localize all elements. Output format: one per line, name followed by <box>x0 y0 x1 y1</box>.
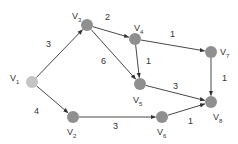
node-label-v5: V5 <box>133 96 142 107</box>
edge-weight-label: 1 <box>146 57 151 66</box>
node-label-subscript: 5 <box>139 101 142 107</box>
node-label-subscript: 6 <box>163 133 166 139</box>
edge-v4-v5 <box>136 45 140 78</box>
node-label-subscript: 1 <box>16 79 19 85</box>
node-label-v7: V7 <box>220 48 229 59</box>
edge-weight-label: 1 <box>222 74 227 83</box>
edge-v1-v3 <box>36 30 82 78</box>
graph-canvas <box>0 0 238 144</box>
node-label-v6: V6 <box>157 128 166 139</box>
edge-weight-label: 3 <box>113 122 118 131</box>
node-label-subscript: 3 <box>78 17 81 23</box>
node-label-subscript: 7 <box>226 53 229 59</box>
edge-v4-v7 <box>141 40 205 51</box>
node-label-subscript: 2 <box>73 133 76 139</box>
edge-weight-label: 6 <box>101 57 106 66</box>
node-v3 <box>81 19 93 31</box>
node-v2 <box>67 111 79 123</box>
edge-v3-v5 <box>91 29 136 79</box>
edge-v1-v2 <box>37 86 68 113</box>
node-label-v8: V8 <box>213 113 222 124</box>
edges-layer <box>36 27 211 117</box>
edge-weight-label: 1 <box>188 117 193 126</box>
edge-weight-label: 1 <box>170 30 175 39</box>
node-label-v1: V1 <box>10 74 19 85</box>
node-label-v4: V4 <box>134 24 143 35</box>
node-v4 <box>129 33 141 45</box>
edge-weight-label: 3 <box>46 40 51 49</box>
node-v1 <box>26 76 38 88</box>
edge-weight-label: 4 <box>34 107 39 116</box>
edge-v3-v4 <box>93 27 129 38</box>
node-label-v2: V2 <box>67 128 76 139</box>
node-v5 <box>134 78 146 90</box>
node-label-subscript: 8 <box>219 118 222 124</box>
edge-v6-v8 <box>168 104 205 115</box>
node-v6 <box>156 111 168 123</box>
edge-weight-label: 2 <box>105 13 110 22</box>
node-v7 <box>205 46 217 58</box>
node-v8 <box>205 96 217 108</box>
edge-weight-label: 3 <box>173 82 178 91</box>
node-label-v3: V3 <box>72 12 81 23</box>
node-label-subscript: 4 <box>140 29 143 35</box>
